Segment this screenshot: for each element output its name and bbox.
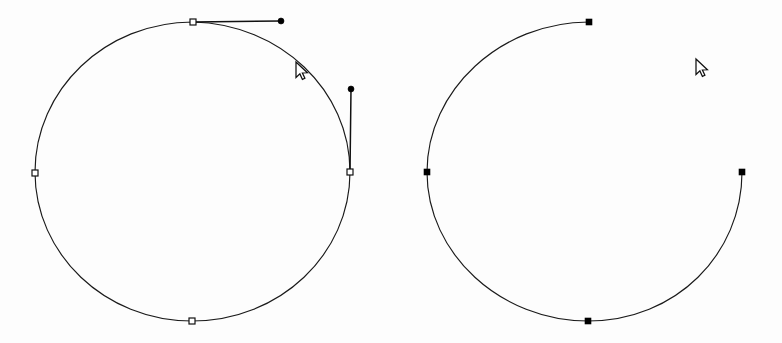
left-path-group[interactable] (32, 18, 354, 324)
drawing-canvas[interactable] (0, 0, 782, 343)
left-handle-group[interactable] (193, 18, 354, 172)
mouse-pointer-icon-right (696, 59, 707, 76)
left-anchor-node-top[interactable] (190, 19, 196, 25)
right-anchor-handle-dot[interactable] (348, 86, 354, 92)
right-anchor-handle-line[interactable] (350, 89, 351, 172)
right-anchor-node-bottom[interactable] (585, 318, 591, 324)
top-anchor-handle-dot[interactable] (278, 18, 284, 24)
right-anchor-node-top[interactable] (586, 19, 592, 25)
left-anchor-node-bottom[interactable] (189, 318, 195, 324)
right-open-arc-path[interactable] (427, 22, 742, 321)
top-anchor-handle-line[interactable] (193, 21, 281, 22)
right-anchor-node-right[interactable] (739, 169, 745, 175)
right-anchor-node-left[interactable] (424, 169, 430, 175)
left-closed-circle-path[interactable] (35, 22, 350, 321)
vector-canvas-svg[interactable] (0, 0, 782, 343)
cursor-layer (296, 59, 707, 79)
left-anchor-group[interactable] (32, 19, 353, 324)
left-anchor-node-left[interactable] (32, 170, 38, 176)
left-anchor-node-right[interactable] (347, 169, 353, 175)
